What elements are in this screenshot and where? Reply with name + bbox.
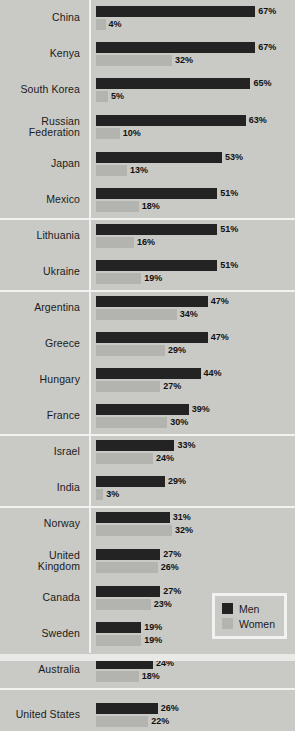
bar-value-women: 32%: [175, 55, 193, 66]
bar-line-women: 5%: [96, 91, 295, 102]
bar-value-men: 67%: [258, 6, 276, 17]
bar-value-men: 51%: [220, 260, 238, 271]
bar-women: [96, 453, 153, 464]
bar-line-men: 67%: [96, 42, 295, 53]
bar-value-men: 51%: [220, 188, 238, 199]
bar-line-men: 63%: [96, 115, 295, 126]
row-label: Argentina: [0, 302, 89, 314]
bar-women: [96, 489, 103, 500]
legend-label-women: Women: [239, 618, 275, 630]
bar-women: [96, 562, 158, 573]
row-bars: 44%27%: [89, 362, 295, 398]
bar-line-women: 34%: [96, 309, 295, 320]
bar-line-women: 18%: [96, 201, 295, 212]
legend-swatch-women-icon: [222, 618, 233, 629]
bar-value-women: 19%: [144, 635, 162, 646]
bar-value-women: 27%: [163, 381, 181, 392]
legend-item-women: Women: [222, 616, 275, 631]
legend-item-men: Men: [222, 601, 275, 616]
chart-row: India29%3%: [0, 470, 295, 506]
bar-value-men: 27%: [163, 549, 181, 560]
bar-women: [96, 599, 151, 610]
row-label: Hungary: [0, 374, 89, 386]
bar-value-men: 44%: [204, 368, 222, 379]
chart-row: China67%4%: [0, 0, 295, 36]
bar-line-women: 30%: [96, 417, 295, 428]
bar-value-men: 27%: [163, 586, 181, 597]
bar-line-men: 47%: [96, 332, 295, 343]
chart-legend: Men Women: [212, 593, 287, 639]
row-bars: 29%3%: [89, 470, 295, 506]
bar-men: [96, 476, 165, 487]
row-bars: 67%4%: [89, 0, 295, 36]
bar-value-men: 51%: [220, 224, 238, 235]
row-bars: 31%32%: [89, 506, 295, 542]
bar-women: [96, 237, 134, 248]
legend-swatch-men-icon: [222, 603, 233, 614]
row-label: Israel: [0, 446, 89, 458]
bar-line-women: 16%: [96, 237, 295, 248]
bar-value-men: 47%: [211, 332, 229, 343]
bar-women: [96, 345, 165, 356]
chart-row: Ukraine51%19%: [0, 254, 295, 290]
bar-value-men: 63%: [249, 115, 267, 126]
bar-value-women: 26%: [161, 562, 179, 573]
bar-line-men: 67%: [96, 6, 295, 17]
bar-value-men: 31%: [173, 512, 191, 523]
bar-women: [96, 381, 160, 392]
chart-row: France39%30%: [0, 398, 295, 434]
bar-line-men: 44%: [96, 368, 295, 379]
bar-value-women: 23%: [154, 599, 172, 610]
row-label: Russian Federation: [0, 116, 89, 139]
row-label: Japan: [0, 158, 89, 170]
bar-value-women: 4%: [109, 19, 122, 30]
chart-row: Lithuania51%16%: [0, 218, 295, 254]
bar-line-men: 29%: [96, 476, 295, 487]
chart-row: Kenya67%32%: [0, 36, 295, 72]
row-label: Kenya: [0, 48, 89, 60]
bar-men: [96, 188, 217, 199]
bar-line-women: 18%: [96, 671, 295, 682]
bar-value-men: 33%: [177, 440, 195, 451]
bar-women: [96, 309, 177, 320]
chart-row: Mexico51%18%: [0, 182, 295, 218]
bar-value-men: 19%: [144, 622, 162, 633]
row-label: South Korea: [0, 84, 89, 96]
row-label: Greece: [0, 338, 89, 350]
bar-line-men: 51%: [96, 188, 295, 199]
chart-row: Argentina47%34%: [0, 290, 295, 326]
bar-men: [96, 115, 246, 126]
bar-value-women: 18%: [142, 671, 160, 682]
row-bars: 51%16%: [89, 218, 295, 254]
bar-line-men: 27%: [96, 549, 295, 560]
bar-value-women: 29%: [168, 345, 186, 356]
chart-row: Japan53%13%: [0, 146, 295, 182]
bar-line-men: 26%: [96, 703, 295, 714]
row-bars: 51%18%: [89, 182, 295, 218]
row-bars: 65%5%: [89, 72, 295, 108]
bar-line-women: 3%: [96, 489, 295, 500]
row-label: United States: [0, 709, 89, 721]
bar-men: [96, 296, 208, 307]
bottom-band: [0, 654, 295, 661]
bar-line-men: 51%: [96, 260, 295, 271]
bar-line-women: 32%: [96, 525, 295, 536]
bar-line-men: 31%: [96, 512, 295, 523]
bar-men: [96, 224, 217, 235]
bar-value-men: 29%: [168, 476, 186, 487]
bar-men: [96, 42, 255, 53]
row-bars: 67%32%: [89, 36, 295, 72]
bar-men: [96, 6, 255, 17]
chart-row: Russian Federation63%10%: [0, 108, 295, 146]
bar-value-men: 47%: [211, 296, 229, 307]
bar-line-men: 39%: [96, 404, 295, 415]
bar-men: [96, 260, 217, 271]
row-bars: 47%29%: [89, 326, 295, 362]
bar-value-men: 67%: [258, 42, 276, 53]
row-label: India: [0, 482, 89, 494]
bar-women: [96, 671, 139, 682]
bar-men: [96, 332, 208, 343]
bar-men: [96, 622, 141, 633]
bar-men: [96, 368, 201, 379]
